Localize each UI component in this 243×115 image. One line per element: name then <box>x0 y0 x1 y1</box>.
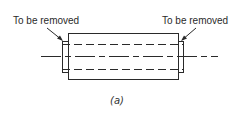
figure-caption: (a) <box>110 95 124 106</box>
left-label: To be removed <box>13 15 79 26</box>
right-label: To be removed <box>162 15 228 26</box>
